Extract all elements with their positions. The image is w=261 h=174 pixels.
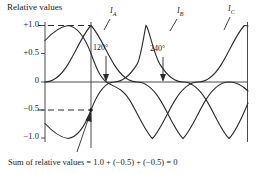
angle-annotation-240: 240° <box>150 45 165 53</box>
y-axis-tick-label-minus-half: −0.5 <box>9 104 39 113</box>
y-axis-tick-label-minus-one: −1.0 <box>9 132 39 141</box>
y-axis-tick-label-plus-half: +0.5 <box>9 48 39 57</box>
sine-wave-plot <box>0 0 261 174</box>
leader-line-ic <box>224 17 230 30</box>
series-label-ic: IC <box>228 5 235 15</box>
angle-annotation-120: 120° <box>93 44 108 52</box>
leader-line-ib <box>170 19 177 31</box>
series-label-ic-subscript: C <box>231 9 235 15</box>
angle-arrow-240 <box>160 57 166 82</box>
angle-arrow-120 <box>103 56 109 82</box>
y-axis-tick-label-plus-one: +1.0 <box>9 20 39 29</box>
series-label-ib-subscript: B <box>180 11 184 17</box>
sum-caption: Sum of relative values = 1.0 + (−0.5) + … <box>8 158 177 167</box>
y-axis-tick-label-zero: 0 <box>9 76 39 85</box>
intersection-point-marker <box>89 108 93 112</box>
series-label-ia-subscript: A <box>113 11 117 17</box>
series-label-ib: IB <box>177 7 183 17</box>
page-title: Relative values <box>7 3 62 12</box>
series-label-ia: IA <box>110 7 116 17</box>
leader-line-ia <box>104 19 110 30</box>
relative-values-chart-figure: Relative values +1.0 +0.5 0 −0.5 −1.0 IA… <box>0 0 261 174</box>
